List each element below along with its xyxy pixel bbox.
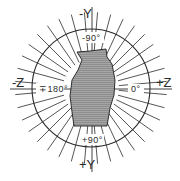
axis-label-pos-z: +Z [156, 75, 172, 90]
radial-ray [18, 95, 64, 108]
angle-label-180: ∓180° [39, 84, 68, 94]
radial-ray [37, 34, 71, 68]
specimen-shape [70, 49, 115, 126]
polar-diagram: -Y +Y -Z +Z -90° +90° ∓180° 0° [0, 0, 180, 181]
axis-label-pos-y: +Y [79, 157, 96, 172]
axis-label-neg-z: -Z [12, 75, 24, 90]
radial-ray [111, 34, 145, 68]
angle-label-neg-90: -90° [82, 33, 101, 43]
angle-label-0: 0° [131, 84, 141, 94]
radial-ray [37, 108, 71, 142]
angle-label-pos-90: +90° [82, 135, 103, 145]
radial-ray [18, 68, 64, 81]
radial-ray [111, 108, 145, 142]
axis-label-neg-y: -Y [79, 6, 92, 21]
radial-ray [118, 95, 164, 108]
